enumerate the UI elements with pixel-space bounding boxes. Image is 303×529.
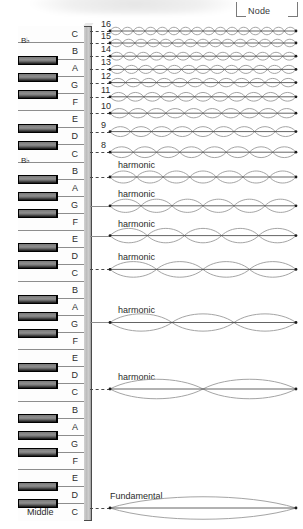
black-key-12[interactable] xyxy=(18,329,58,338)
white-key-label: E xyxy=(72,353,78,363)
black-key-5[interactable] xyxy=(18,175,58,184)
b-flat-label-0: B♭ xyxy=(21,36,30,45)
node-callout: Node xyxy=(232,2,298,24)
white-key-label: C xyxy=(72,268,79,278)
leader-line xyxy=(90,69,110,70)
keyboard-side-edge xyxy=(84,26,92,521)
leader-line xyxy=(90,83,110,84)
white-key-label: A xyxy=(72,302,78,312)
white-key-label: G xyxy=(71,80,78,90)
white-key-label: C xyxy=(72,507,79,517)
leader-line xyxy=(90,113,110,114)
white-key-label: D xyxy=(72,131,79,141)
white-key-label: A xyxy=(72,63,78,73)
black-key-4[interactable] xyxy=(18,141,58,150)
leader-line xyxy=(90,389,110,390)
black-key-19[interactable] xyxy=(18,499,58,508)
white-key-label: D xyxy=(72,490,79,500)
black-key-16[interactable] xyxy=(18,431,58,440)
node-label: Node xyxy=(248,6,270,16)
black-key-2[interactable] xyxy=(18,90,58,99)
standing-wave-10 xyxy=(110,104,296,122)
black-key-0[interactable] xyxy=(18,56,58,65)
white-key-label: B xyxy=(72,285,78,295)
black-key-6[interactable] xyxy=(18,192,58,201)
black-key-13[interactable] xyxy=(18,363,58,372)
white-key-label: C xyxy=(72,29,79,39)
standing-wave-4 xyxy=(110,256,296,283)
white-key-label: G xyxy=(71,319,78,329)
black-key-10[interactable] xyxy=(18,295,58,304)
white-key-label: E xyxy=(72,114,78,124)
black-key-14[interactable] xyxy=(18,380,58,389)
white-key-label: F xyxy=(73,97,79,107)
leader-line xyxy=(90,508,110,509)
leader-line xyxy=(90,322,110,323)
white-key-label: B xyxy=(72,166,78,176)
black-key-9[interactable] xyxy=(18,260,58,269)
white-key-label: D xyxy=(72,370,79,380)
white-key-label: D xyxy=(72,251,79,261)
node-bracket-left-icon xyxy=(236,2,246,17)
black-key-15[interactable] xyxy=(18,414,58,423)
scan-smudge xyxy=(30,0,240,14)
leader-line xyxy=(90,236,110,237)
white-key-label: F xyxy=(73,456,79,466)
white-key-label: G xyxy=(71,200,78,210)
leader-line xyxy=(90,152,110,153)
black-key-18[interactable] xyxy=(18,482,58,491)
standing-wave-9 xyxy=(110,122,296,141)
black-key-11[interactable] xyxy=(18,312,58,321)
black-key-17[interactable] xyxy=(18,448,58,457)
leader-line xyxy=(90,206,110,207)
white-key-label: A xyxy=(72,183,78,193)
standing-wave-2 xyxy=(110,373,296,405)
standing-wave-1 xyxy=(110,490,296,526)
middle-c-label: Middle xyxy=(27,507,54,517)
harmonic-series-figure: Node CBAGFEDCBAGFEDCBAGFEDCBAGFEDCMiddle… xyxy=(0,0,303,529)
leader-line xyxy=(90,132,110,133)
piano-keyboard: CBAGFEDCBAGFEDCBAGFEDCBAGFEDCMiddle B♭B♭ xyxy=(18,26,92,521)
harmonic-number-8: 8 xyxy=(101,141,106,150)
white-key-label: C xyxy=(72,149,79,159)
leader-line xyxy=(90,177,110,178)
white-key-label: F xyxy=(73,217,79,227)
white-key-label: G xyxy=(71,439,78,449)
white-key-label: E xyxy=(72,234,78,244)
b-flat-label-1: B♭ xyxy=(21,156,30,165)
harmonic-number-9: 9 xyxy=(101,121,106,130)
black-key-3[interactable] xyxy=(18,124,58,133)
white-key-label: A xyxy=(72,422,78,432)
leader-line xyxy=(90,269,110,270)
standing-wave-3 xyxy=(110,308,296,337)
standing-wave-6 xyxy=(110,194,296,218)
node-bracket-right-icon xyxy=(288,2,298,17)
standing-wave-7 xyxy=(110,166,296,188)
white-key-label: C xyxy=(72,387,79,397)
white-key-label: E xyxy=(72,473,78,483)
leader-line xyxy=(90,97,110,98)
black-key-7[interactable] xyxy=(18,209,58,218)
white-key-label: B xyxy=(72,405,78,415)
standing-wave-5 xyxy=(110,223,296,248)
white-key-label: B xyxy=(72,46,78,56)
black-key-8[interactable] xyxy=(18,243,58,252)
harmonic-number-11: 11 xyxy=(101,86,110,95)
black-key-1[interactable] xyxy=(18,73,58,82)
white-key-label: F xyxy=(73,336,79,346)
